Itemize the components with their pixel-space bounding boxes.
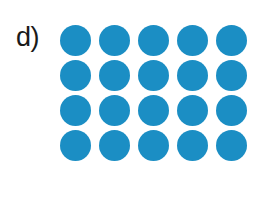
circle-marker [60, 95, 91, 126]
panel-label: d) [16, 24, 39, 51]
dot-grid [60, 25, 247, 161]
circle-marker [216, 130, 247, 161]
circle-marker [99, 60, 130, 91]
circle-marker [177, 130, 208, 161]
circle-marker [138, 60, 169, 91]
circle-marker [99, 25, 130, 56]
circle-marker [60, 60, 91, 91]
circle-marker [138, 130, 169, 161]
circle-marker [60, 130, 91, 161]
circle-marker [99, 130, 130, 161]
circle-marker [177, 25, 208, 56]
circle-marker [177, 95, 208, 126]
circle-marker [216, 60, 247, 91]
circle-marker [138, 95, 169, 126]
circle-marker [177, 60, 208, 91]
circle-marker [99, 95, 130, 126]
circle-marker [216, 95, 247, 126]
circle-marker [138, 25, 169, 56]
circle-marker [60, 25, 91, 56]
circle-marker [216, 25, 247, 56]
figure-panel: d) [0, 0, 256, 215]
